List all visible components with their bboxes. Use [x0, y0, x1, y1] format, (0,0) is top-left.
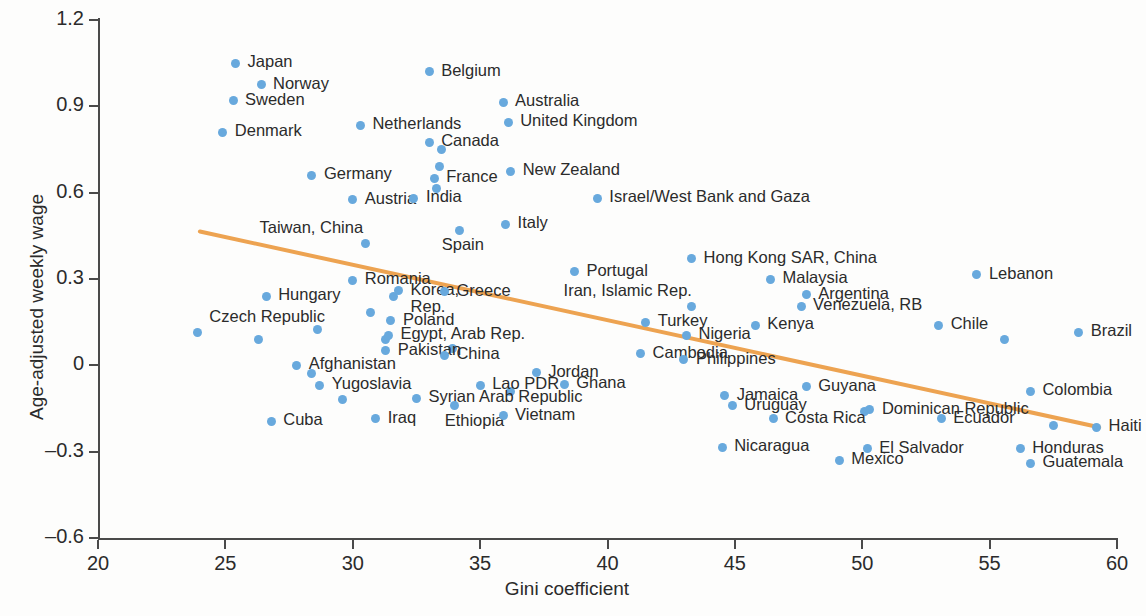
data-point[interactable] [593, 194, 602, 203]
data-point[interactable] [361, 239, 370, 248]
data-point[interactable] [430, 174, 439, 183]
data-point[interactable] [229, 96, 238, 105]
data-point-label: Cuba [283, 411, 322, 428]
data-point[interactable] [1049, 421, 1058, 430]
data-point-label: Germany [324, 165, 392, 182]
data-point[interactable] [338, 395, 347, 404]
data-point[interactable] [1092, 423, 1101, 432]
data-point[interactable] [720, 391, 729, 400]
x-tick-mark [479, 540, 481, 549]
data-point[interactable] [504, 118, 513, 127]
data-point[interactable] [313, 325, 322, 334]
data-point-label: Vietnam [515, 406, 575, 423]
data-point[interactable] [193, 328, 202, 337]
data-point-label: Nicaragua [734, 437, 809, 454]
data-point[interactable] [802, 382, 811, 391]
data-point-label: Yugoslavia [332, 375, 412, 392]
x-tick-label: 35 [450, 552, 510, 575]
data-point-label: Hungary [278, 286, 340, 303]
y-tick-mark [89, 537, 98, 539]
data-point[interactable] [728, 401, 737, 410]
data-point[interactable] [262, 292, 271, 301]
data-point-label: Costa Rica [785, 409, 866, 426]
data-point[interactable] [455, 226, 464, 235]
data-point-label: Ecuador [953, 409, 1014, 426]
data-point[interactable] [384, 331, 393, 340]
data-point-label: Denmark [235, 122, 302, 139]
data-point[interactable] [440, 351, 449, 360]
data-point[interactable] [570, 267, 579, 276]
data-point[interactable] [687, 302, 696, 311]
x-tick-mark [607, 540, 609, 549]
data-point[interactable] [409, 194, 418, 203]
data-point[interactable] [499, 98, 508, 107]
data-point[interactable] [641, 318, 650, 327]
data-point[interactable] [687, 254, 696, 263]
data-point[interactable] [766, 275, 775, 284]
x-tick-label: 30 [323, 552, 383, 575]
y-axis-line [98, 18, 100, 540]
x-tick-label: 50 [832, 552, 892, 575]
data-point[interactable] [636, 349, 645, 358]
data-point[interactable] [1074, 328, 1083, 337]
data-point[interactable] [937, 414, 946, 423]
y-tick-label: 0.3 [14, 266, 84, 289]
data-point[interactable] [348, 276, 357, 285]
data-point[interactable] [371, 414, 380, 423]
x-tick-mark [1116, 540, 1118, 549]
y-tick-label: 1.2 [14, 7, 84, 30]
data-point[interactable] [972, 270, 981, 279]
data-point[interactable] [412, 394, 421, 403]
data-point[interactable] [315, 381, 324, 390]
data-point[interactable] [802, 290, 811, 299]
data-point[interactable] [835, 456, 844, 465]
data-point[interactable] [865, 405, 874, 414]
data-point[interactable] [386, 316, 395, 325]
data-point[interactable] [679, 355, 688, 364]
data-point[interactable] [1016, 444, 1025, 453]
y-tick-mark [89, 451, 98, 453]
data-point[interactable] [769, 414, 778, 423]
data-point[interactable] [501, 220, 510, 229]
data-point-label: Brazil [1091, 322, 1132, 339]
data-point[interactable] [1000, 335, 1009, 344]
data-point[interactable] [356, 121, 365, 130]
data-point[interactable] [366, 308, 375, 317]
data-point-label: Israel/West Bank and Gaza [609, 188, 810, 205]
data-point-label: Iran, Islamic Rep. [564, 282, 692, 299]
data-point-label: Mexico [851, 450, 903, 467]
data-point[interactable] [506, 167, 515, 176]
data-point-label: Chile [951, 315, 989, 332]
data-point[interactable] [751, 321, 760, 330]
x-tick-mark [989, 540, 991, 549]
data-point[interactable] [231, 59, 240, 68]
y-tick-mark [89, 105, 98, 107]
data-point[interactable] [257, 80, 266, 89]
data-point-label: Greece [456, 282, 510, 299]
data-point-label: India [426, 188, 462, 205]
data-point[interactable] [499, 411, 508, 420]
data-point-label: Netherlands [372, 115, 461, 132]
data-point[interactable] [394, 286, 403, 295]
data-point[interactable] [1026, 459, 1035, 468]
data-point[interactable] [348, 195, 357, 204]
data-point[interactable] [435, 162, 444, 171]
data-point[interactable] [307, 171, 316, 180]
data-point[interactable] [797, 302, 806, 311]
data-point[interactable] [267, 417, 276, 426]
data-point[interactable] [425, 138, 434, 147]
data-point[interactable] [292, 361, 301, 370]
x-axis-title: Gini coefficient [0, 578, 1134, 600]
data-point[interactable] [450, 401, 459, 410]
data-point[interactable] [1026, 387, 1035, 396]
y-tick-mark [89, 278, 98, 280]
data-point[interactable] [425, 67, 434, 76]
x-tick-mark [97, 540, 99, 549]
data-point[interactable] [218, 128, 227, 137]
data-point[interactable] [718, 443, 727, 452]
data-point[interactable] [934, 321, 943, 330]
y-tick-mark [89, 19, 98, 21]
data-point[interactable] [682, 331, 691, 340]
data-point-label: Kenya [767, 315, 814, 332]
data-point[interactable] [254, 335, 263, 344]
